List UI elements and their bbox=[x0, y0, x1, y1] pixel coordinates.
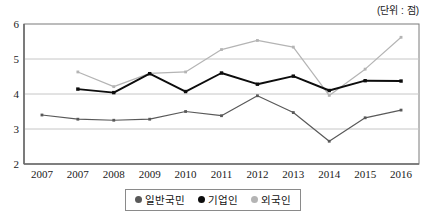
legend-item-business_people[interactable]: 기업인 bbox=[198, 192, 238, 207]
legend-item-label: 일반국민 bbox=[145, 192, 185, 207]
legend-item-general_public[interactable]: 일반국민 bbox=[135, 192, 185, 207]
legend-item-label: 기업인 bbox=[208, 192, 238, 207]
line-chart: (단위 : 점) 23456 2007200720082009201020112… bbox=[0, 0, 425, 215]
y-tick-label: 6 bbox=[0, 18, 19, 30]
y-tick-label: 5 bbox=[0, 53, 19, 65]
y-axis-tick-labels: 23456 bbox=[0, 18, 19, 170]
y-tick-label: 4 bbox=[0, 88, 19, 100]
x-tick-label: 2013 bbox=[282, 168, 304, 180]
x-tick-label: 2015 bbox=[354, 168, 376, 180]
x-tick-label: 2016 bbox=[390, 168, 412, 180]
x-tick-label: 2007 bbox=[67, 168, 89, 180]
chart-legend: 일반국민기업인외국인 bbox=[125, 189, 301, 211]
unit-note-label: (단위 : 점) bbox=[377, 2, 419, 17]
x-tick-label: 2007 bbox=[31, 168, 53, 180]
legend-item-label: 외국인 bbox=[261, 192, 291, 207]
x-tick-label: 2011 bbox=[211, 168, 233, 180]
x-tick-label: 2012 bbox=[246, 168, 268, 180]
legend-marker-icon bbox=[135, 196, 142, 203]
legend-marker-icon bbox=[198, 196, 205, 203]
x-tick-label: 2009 bbox=[139, 168, 161, 180]
plot-canvas bbox=[0, 18, 425, 170]
x-tick-label: 2010 bbox=[175, 168, 197, 180]
y-tick-label: 3 bbox=[0, 123, 19, 135]
x-tick-label: 2008 bbox=[103, 168, 125, 180]
legend-marker-icon bbox=[251, 196, 258, 203]
legend-item-foreigners[interactable]: 외국인 bbox=[251, 192, 291, 207]
y-tick-label: 2 bbox=[0, 158, 19, 170]
plot-area: 23456 bbox=[0, 18, 425, 170]
x-tick-label: 2014 bbox=[318, 168, 340, 180]
x-axis-tick-labels: 2007200720082009201020112012201320142015… bbox=[24, 168, 419, 186]
